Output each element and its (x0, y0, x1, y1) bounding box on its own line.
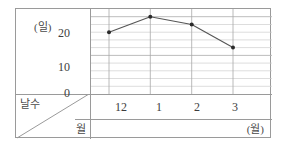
y-tick-label-10: 10 (46, 61, 70, 73)
data-point (148, 15, 152, 19)
plot-svg (91, 9, 272, 94)
x-tick-label-2: 2 (185, 101, 209, 113)
corner-label-month: 월 (76, 123, 86, 136)
x-axis-unit-label: (월) (247, 123, 264, 136)
bottom-row-divider (75, 119, 272, 120)
chart-frame: (일) 20 10 0 12 1 2 3 (월) 날수 월 (15, 8, 271, 138)
y-tick-label-20: 20 (46, 27, 70, 39)
corner-label-days: 날수 (20, 98, 40, 111)
horizontal-gridlines (91, 17, 272, 87)
corner-header-cell: 날수 월 (16, 94, 90, 139)
data-point (107, 30, 111, 34)
x-tick-label-3: 3 (223, 101, 247, 113)
x-tick-label-12: 12 (109, 101, 133, 113)
x-tick-label-1: 1 (147, 101, 171, 113)
plot-area (91, 9, 272, 94)
line-chart-figure: (일) 20 10 0 12 1 2 3 (월) 날수 월 (0, 0, 286, 148)
vertical-gridlines (109, 9, 233, 94)
data-point (231, 46, 235, 50)
data-point (190, 23, 194, 27)
